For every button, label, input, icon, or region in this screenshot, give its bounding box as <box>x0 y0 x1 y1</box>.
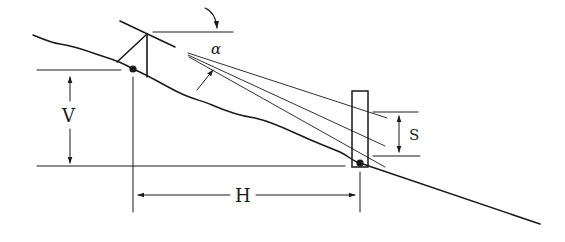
sight-lines <box>188 53 387 167</box>
angle-pointer-arrow <box>197 70 213 90</box>
rod-station-point <box>356 159 363 166</box>
stadia-diagram: α V H S <box>0 0 565 242</box>
ground-profile <box>33 35 540 224</box>
vertical-label: V <box>61 105 76 126</box>
vertical-angle-arrow <box>205 8 217 28</box>
vertical-distance-dimension <box>37 70 345 166</box>
angle-label: α <box>211 40 221 58</box>
instrument-station-point <box>129 65 136 72</box>
stadia-interval-label: S <box>409 126 419 144</box>
horizontal-label: H <box>235 185 251 206</box>
